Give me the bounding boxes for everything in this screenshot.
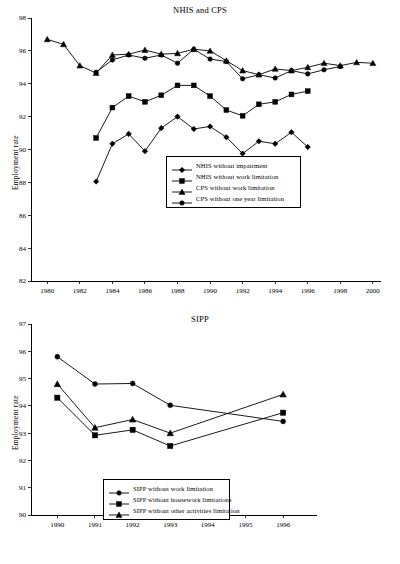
plot-area-bottom: 9091929394959697199019911992199319941995… [0, 300, 400, 564]
svg-text:96: 96 [19, 348, 27, 356]
svg-text:91: 91 [19, 484, 27, 492]
svg-text:1982: 1982 [73, 287, 88, 295]
svg-text:1980: 1980 [40, 287, 55, 295]
legend-item-label: SIPP without work limitation [133, 484, 213, 494]
legend-item: NHIS without impairment [171, 160, 295, 171]
svg-text:1994: 1994 [201, 521, 216, 529]
svg-text:90: 90 [19, 146, 27, 154]
svg-text:86: 86 [19, 212, 27, 220]
svg-text:90: 90 [19, 511, 27, 519]
svg-text:1992: 1992 [236, 287, 251, 295]
diamond-marker-icon [171, 161, 193, 171]
chart-panel-nhis-cps: NHIS and CPS Employment rate 82848688909… [0, 0, 400, 300]
svg-text:1996: 1996 [301, 287, 316, 295]
legend-item: SIPP without work limitation [108, 483, 224, 494]
square-marker-icon [171, 172, 193, 182]
chart-panel-sipp: SIPP Employment rate 9091929394959697199… [0, 300, 400, 564]
triangle-marker-icon [108, 506, 130, 516]
svg-text:98: 98 [19, 14, 27, 22]
circle-marker-icon [171, 194, 193, 204]
square-marker-icon [108, 495, 130, 505]
circle-marker-icon [108, 484, 130, 494]
legend-bottom: SIPP without work limitationSIPP without… [103, 479, 230, 520]
plot-area-top: 8284868890929496981980198219841986198819… [0, 0, 400, 300]
svg-text:1998: 1998 [333, 287, 348, 295]
svg-text:2000: 2000 [366, 287, 381, 295]
svg-text:88: 88 [19, 179, 27, 187]
svg-text:94: 94 [19, 80, 27, 88]
legend-item-label: SIPP without other activities limitation [133, 506, 240, 516]
legend-item-label: NHIS without work limitation [196, 172, 278, 182]
svg-text:1996: 1996 [276, 521, 291, 529]
legend-item-label: NHIS without impairment [196, 161, 268, 171]
legend-item: NHIS without work limitation [171, 171, 295, 182]
svg-text:1993: 1993 [163, 521, 178, 529]
svg-text:95: 95 [19, 375, 27, 383]
legend-item-label: CPS without work limitation [196, 183, 275, 193]
svg-text:1984: 1984 [105, 287, 120, 295]
legend-item: CPS without work limitation [171, 182, 295, 193]
triangle-marker-icon [171, 183, 193, 193]
svg-text:1995: 1995 [239, 521, 254, 529]
svg-text:1992: 1992 [126, 521, 141, 529]
svg-text:1990: 1990 [50, 521, 65, 529]
svg-text:1986: 1986 [138, 287, 153, 295]
svg-text:93: 93 [19, 430, 27, 438]
legend-item: CPS without one year limitation [171, 193, 295, 204]
legend-item-label: CPS without one year limitation [196, 194, 284, 204]
svg-text:1988: 1988 [171, 287, 186, 295]
legend-top: NHIS without impairmentNHIS without work… [166, 156, 301, 208]
svg-text:94: 94 [19, 402, 27, 410]
legend-item: SIPP without housework limitations [108, 494, 224, 505]
svg-text:92: 92 [19, 113, 27, 121]
legend-item-label: SIPP without housework limitations [133, 495, 232, 505]
svg-text:97: 97 [19, 320, 27, 328]
legend-item: SIPP without other activities limitation [108, 505, 224, 516]
svg-text:1994: 1994 [268, 287, 283, 295]
svg-text:84: 84 [19, 245, 27, 253]
svg-text:92: 92 [19, 457, 27, 465]
svg-text:96: 96 [19, 47, 27, 55]
svg-text:82: 82 [19, 277, 27, 285]
svg-text:1990: 1990 [203, 287, 218, 295]
svg-text:1991: 1991 [88, 521, 103, 529]
